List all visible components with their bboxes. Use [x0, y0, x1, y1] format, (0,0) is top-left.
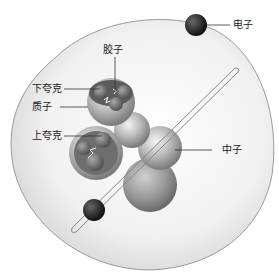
up-quark: [109, 97, 123, 111]
electron-bottom: [83, 199, 105, 221]
proton-cutaway: [87, 78, 135, 126]
label-neutron: 中子: [222, 145, 242, 155]
label-proton: 质子: [32, 102, 52, 112]
up-quark: [117, 85, 131, 99]
label-electron: 电子: [233, 20, 253, 30]
down-quark: [77, 141, 91, 155]
up-quark: [95, 132, 111, 148]
down-quark: [94, 85, 108, 99]
proton-cutaway-2: [69, 126, 123, 180]
label-up-quark: 上夸克: [32, 131, 62, 141]
label-gluon: 胶子: [103, 45, 123, 55]
label-down-quark: 下夸克: [32, 84, 62, 94]
electron-top: [185, 14, 207, 36]
up-quark: [86, 153, 104, 171]
